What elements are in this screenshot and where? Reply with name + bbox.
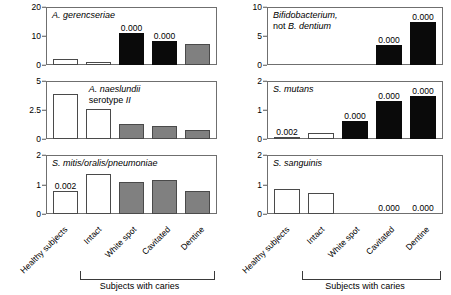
bar-slot	[82, 7, 115, 65]
figure-panel-grid: 01020A. gerencseriae0.0000.000 02.55A. n…	[0, 0, 451, 295]
y-tick-label: 1	[225, 106, 267, 115]
y-axis-s-mutans: 012	[225, 81, 267, 139]
x-tick-labels: Healthy subjectsIntactWhite spotCavitate…	[46, 223, 217, 269]
bar-slot	[181, 155, 214, 214]
bar-white-spot: 0.000	[342, 121, 367, 139]
bar-cavitated	[152, 126, 176, 139]
bar-slot	[304, 81, 338, 139]
y-axis-bifidobacterium: 0510	[225, 7, 267, 65]
bar-slot: 0.000	[338, 81, 372, 139]
bar-intact	[86, 109, 110, 139]
bar-healthy-subjects	[53, 94, 77, 139]
panel-bifidobacterium: 0510Bifidobacterium,not B. dentium0.0000…	[225, 0, 451, 74]
bar-intact	[86, 62, 110, 65]
x-tick-slot: White spot	[355, 223, 356, 269]
y-tick-label: 0	[0, 135, 46, 144]
bar-dentine	[185, 130, 209, 139]
p-value-label: 0.000	[121, 24, 142, 33]
x-tick-slot: Healthy subjects	[63, 223, 64, 269]
plot-area-s-sanguinis: S. sanguinis0.0000.000	[267, 155, 443, 214]
panel-s-mitis-oralis-pneumoniae: 012S. mitis/oralis/pneumoniae0.002	[0, 148, 225, 223]
p-value-label: 0.000	[378, 92, 399, 101]
x-tick-slot: Intact	[97, 223, 98, 269]
y-tick-label: 0	[225, 135, 267, 144]
bar-slot: 0.000	[406, 155, 440, 214]
bar-slot	[270, 7, 304, 65]
bar-cavitated: 0.000	[152, 41, 176, 65]
bar-dentine: 0.000	[410, 96, 435, 139]
y-tick-label: 0	[0, 210, 46, 219]
bar-slot	[338, 155, 372, 214]
y-tick-label: 2	[225, 77, 267, 86]
x-tick-labels: Healthy subjectsIntactWhite spotCavitate…	[267, 223, 443, 269]
bar-series: 0.0000.000	[267, 7, 443, 65]
y-tick-label: 10	[0, 32, 46, 41]
group-bracket-label: Subjects with caries	[325, 282, 405, 291]
plot-area-bifidobacterium: Bifidobacterium,not B. dentium0.0000.000	[267, 7, 443, 65]
bar-slot	[148, 155, 181, 214]
bar-series	[46, 81, 217, 139]
bar-slot	[115, 81, 148, 139]
y-tick-label: 20	[0, 3, 46, 12]
panel-s-sanguinis: 012S. sanguinis0.0000.000	[225, 148, 451, 223]
bar-cavitated	[152, 180, 176, 214]
panel-s-mutans: 012S. mutans0.0020.0000.0000.000	[225, 74, 451, 148]
bar-series: 0.002	[46, 155, 217, 214]
y-axis-a-gerencseriae: 01020	[0, 7, 46, 65]
plot-area-s-mutans: S. mutans0.0020.0000.0000.000	[267, 81, 443, 139]
x-label-white-spot: White spot	[327, 225, 361, 259]
x-label-cavitated: Cavitated	[140, 225, 171, 256]
y-tick-label: 5	[225, 32, 267, 41]
y-axis-s-mitis-oralis-pneumoniae: 012	[0, 155, 46, 214]
bar-series: 0.0000.000	[46, 7, 217, 65]
x-tick-slot: Cavitated	[390, 223, 391, 269]
bar-slot: 0.002	[49, 155, 82, 214]
p-value-label: 0.000	[378, 204, 399, 213]
panel-a-naeslundii-serotype-ii: 02.55A. naeslundii serotype II	[0, 74, 225, 148]
bar-healthy-subjects	[53, 59, 77, 65]
bar-slot: 0.000	[115, 7, 148, 65]
bar-white-spot	[119, 182, 143, 214]
plot-area-s-mitis-oralis-pneumoniae: S. mitis/oralis/pneumoniae0.002	[46, 155, 217, 214]
x-axis-left: Healthy subjectsIntactWhite spotCavitate…	[0, 223, 225, 295]
bar-slot	[304, 7, 338, 65]
x-label-dentine: Dentine	[179, 225, 206, 252]
y-tick-label: 2	[225, 151, 267, 160]
bar-intact	[308, 133, 333, 139]
p-value-label: 0.000	[412, 13, 433, 22]
x-tick-slot: Cavitated	[166, 223, 167, 269]
y-tick-label: 0	[0, 61, 46, 70]
right-column: 0510Bifidobacterium,not B. dentium0.0000…	[225, 0, 451, 295]
bar-healthy-subjects	[274, 189, 299, 214]
bar-intact	[308, 193, 333, 214]
bar-white-spot: 0.000	[119, 33, 143, 65]
x-axis-right: Healthy subjectsIntactWhite spotCavitate…	[225, 223, 451, 295]
bar-slot	[49, 81, 82, 139]
x-tick-slot: Dentine	[200, 223, 201, 269]
bar-white-spot	[119, 124, 143, 139]
bar-series: 0.0020.0000.0000.000	[267, 81, 443, 139]
bar-slot: 0.000	[372, 81, 406, 139]
x-label-dentine: Dentine	[405, 225, 432, 252]
bar-slot: 0.000	[148, 7, 181, 65]
y-tick-label: 10	[225, 3, 267, 12]
y-axis-s-sanguinis: 012	[225, 155, 267, 214]
bar-slot	[304, 155, 338, 214]
p-value-label: 0.002	[55, 182, 76, 191]
bar-healthy-subjects: 0.002	[53, 191, 77, 214]
y-tick-label: 0	[225, 61, 267, 70]
y-tick-label: 2.5	[0, 106, 46, 115]
bar-slot	[82, 81, 115, 139]
x-tick-slot: White spot	[132, 223, 133, 269]
bar-slot	[49, 7, 82, 65]
p-value-label: 0.002	[276, 128, 297, 137]
p-value-label: 0.000	[378, 36, 399, 45]
y-tick-label: 5	[0, 77, 46, 86]
bar-intact	[86, 174, 110, 214]
left-column: 01020A. gerencseriae0.0000.000 02.55A. n…	[0, 0, 225, 295]
bar-slot: 0.002	[270, 81, 304, 139]
plot-area-a-naeslundii-serotype-ii: A. naeslundii serotype II	[46, 81, 217, 139]
x-tick-slot: Healthy subjects	[285, 223, 286, 269]
bar-slot: 0.000	[372, 155, 406, 214]
x-label-intact: Intact	[305, 225, 326, 246]
